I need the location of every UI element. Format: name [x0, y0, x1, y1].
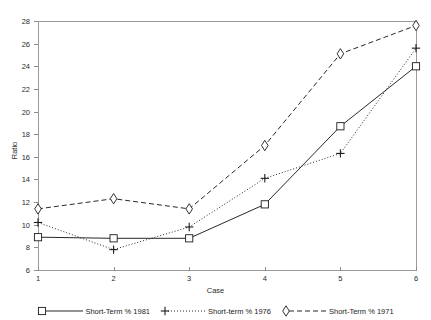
data-point-diamond: [283, 306, 290, 316]
data-point-square: [110, 235, 117, 242]
data-point-diamond: [110, 193, 117, 203]
data-point-diamond: [337, 49, 344, 59]
legend-label: Short-term % 1976: [208, 307, 271, 316]
data-point-plus: [412, 44, 420, 52]
chart-figure: 2826242220181614121086 123456 Ratio Case…: [0, 0, 431, 320]
legend-label: Short-Term % 1981: [85, 307, 150, 316]
data-point-square: [34, 234, 41, 241]
legend-entry[interactable]: Short-Term % 1981: [37, 306, 150, 316]
data-point-plus: [336, 149, 344, 157]
series-line: [38, 66, 416, 238]
series-line: [38, 48, 416, 249]
data-point-square: [261, 201, 268, 208]
data-point-square: [337, 123, 344, 130]
data-point-plus: [185, 223, 193, 231]
series-line: [38, 26, 416, 209]
legend-key-square: [37, 306, 83, 316]
data-point-diamond: [35, 204, 42, 214]
data-point-plus: [34, 218, 42, 226]
data-point-plus: [161, 307, 169, 315]
legend-key-diamond: [281, 306, 327, 316]
data-point-diamond: [413, 20, 420, 30]
chart-legend: Short-Term % 1981Short-term % 1976Short-…: [0, 302, 431, 320]
data-point-plus: [109, 245, 117, 253]
data-point-square: [39, 307, 46, 314]
series-diamond: [35, 20, 420, 214]
data-point-diamond: [186, 204, 193, 214]
legend-label: Short-Term % 1971: [329, 307, 394, 316]
data-series-layer: [0, 0, 431, 320]
data-point-square: [412, 63, 419, 70]
data-point-diamond: [262, 140, 269, 150]
legend-entry[interactable]: Short-Term % 1971: [281, 306, 394, 316]
series-plus: [34, 44, 420, 254]
data-point-square: [186, 235, 193, 242]
legend-key-plus: [160, 306, 206, 316]
legend-entry[interactable]: Short-term % 1976: [160, 306, 271, 316]
series-square: [34, 63, 419, 242]
data-point-plus: [261, 174, 269, 182]
